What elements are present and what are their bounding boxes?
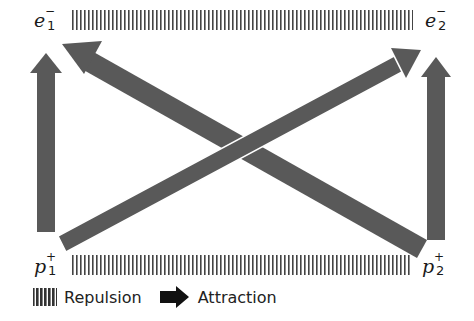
attraction-arrow-p2-e2 [421,57,451,240]
label-e2-index: 2 [438,19,446,32]
legend: Repulsion Attraction [32,286,277,308]
label-p2-index: 2 [436,264,444,277]
label-p1-charge: + [46,251,56,263]
legend-repulsion: Repulsion [32,288,142,307]
label-p2-symbol: p [422,255,434,277]
attraction-arrow-p1-e1 [30,53,62,232]
label-e1-symbol: e [34,9,45,31]
label-p2: p + 2 [422,257,434,276]
label-e1-charge: − [45,5,55,17]
repulsion-bar-protons [70,255,410,275]
label-e2: e − 2 [425,11,436,30]
interaction-diagram [0,0,474,321]
label-e2-symbol: e [425,9,436,31]
repulsion-bar-electrons [70,10,413,30]
label-e1: e − 1 [34,11,45,30]
label-p1: p + 1 [34,257,46,276]
legend-attraction: Attraction [160,286,277,308]
label-e1-index: 1 [47,19,55,32]
legend-attraction-label: Attraction [198,288,277,307]
attraction-arrow-icon [160,286,190,308]
label-e2-charge: − [436,5,446,17]
legend-repulsion-label: Repulsion [64,288,142,307]
repulsion-hatch-icon [32,288,58,306]
label-p2-charge: + [434,251,444,263]
label-p1-index: 1 [48,264,56,277]
label-p1-symbol: p [34,255,46,277]
